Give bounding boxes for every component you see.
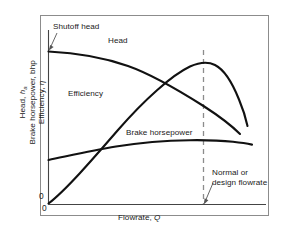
y-axis-title: Head, ha Brake horsepower, bhp Efficienc… — [18, 22, 47, 182]
y-axis-head-prefix: Head, — [18, 94, 27, 118]
x-axis-title: Flowrate, Q — [118, 213, 160, 222]
x-axis-title-prefix: Flowrate, — [118, 213, 154, 222]
head-curve-label: Head — [108, 36, 128, 45]
efficiency-curve-label: Efficiency — [68, 89, 103, 98]
shutoff-head-label: Shutoff head — [53, 22, 99, 31]
y-axis-head-symbol: h — [18, 90, 27, 95]
pump-performance-figure: Head, ha Brake horsepower, bhp Efficienc… — [0, 0, 281, 232]
y-axis-title-line-2: Brake horsepower, bhp — [27, 22, 37, 182]
x-axis-origin-label: 0 — [42, 203, 47, 213]
y-axis-head-subscript: a — [20, 86, 27, 90]
y-axis-origin-label: 0 — [39, 191, 44, 201]
y-axis-title-line-1: Head, ha — [18, 22, 28, 182]
brake-horsepower-curve-label: Brake horsepower — [126, 128, 192, 137]
y-axis-efficiency-prefix: Efficiency, — [37, 85, 46, 124]
y-axis-title-line-3: Efficiency, η — [37, 22, 47, 182]
y-axis-efficiency-symbol: η — [37, 81, 46, 86]
normal-design-flowrate-label: Normal or design flowrate — [212, 168, 272, 188]
x-axis-title-symbol: Q — [154, 213, 160, 222]
